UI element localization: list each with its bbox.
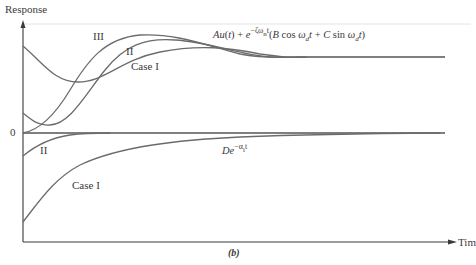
label-upper-II: II xyxy=(126,46,133,57)
x-axis-arrow-icon xyxy=(448,240,457,245)
upper-formula: Au(t) + e−ζωnt(B cos ωdt + C sin ωdt) xyxy=(213,27,365,43)
curve-upper-III xyxy=(23,35,300,133)
label-upper-case-1: Case I xyxy=(131,61,159,72)
label-upper-III: III xyxy=(93,31,104,42)
label-lower-II: II xyxy=(40,145,47,156)
figure-caption: (b) xyxy=(228,248,240,258)
x-axis-label: Tim xyxy=(458,237,476,248)
curve-upper-case-1 xyxy=(23,46,306,82)
curve-upper-II xyxy=(23,40,300,125)
lower-formula: De−αit xyxy=(222,143,247,156)
curve-lower-II xyxy=(23,133,110,156)
y-axis-label: Response xyxy=(5,4,47,15)
label-lower-case-1: Case I xyxy=(72,180,100,191)
zero-tick-label: 0 xyxy=(10,127,16,138)
